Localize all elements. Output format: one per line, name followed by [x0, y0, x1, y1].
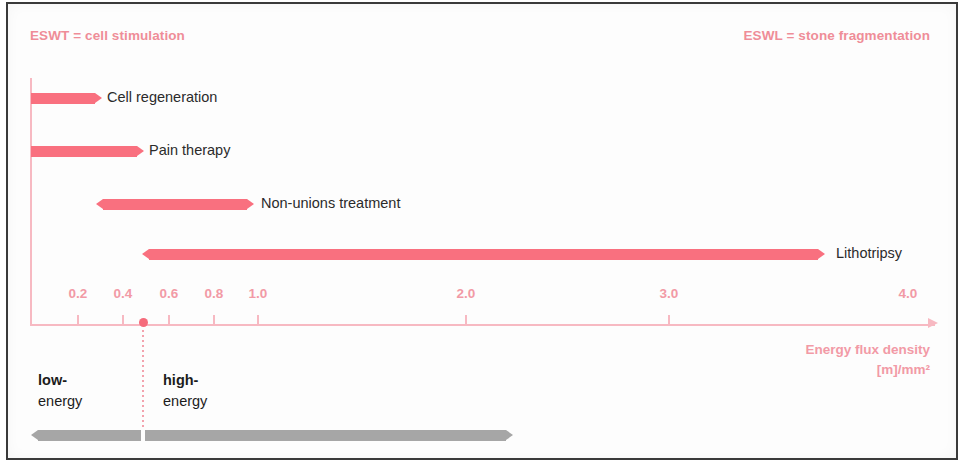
- range-label-pain-therapy: Pain therapy: [149, 142, 230, 158]
- axis-tick-label-0: 0.2: [69, 286, 88, 301]
- range-label-non-unions-treatment: Non-unions treatment: [261, 195, 400, 211]
- axis-tick-2.0: [465, 315, 467, 325]
- axis-tick-3.0: [668, 315, 670, 325]
- axis-tick-0.4: [122, 315, 124, 325]
- energy-range-gray-bar: [38, 430, 506, 441]
- eswl-caption: ESWL = stone fragmentation: [744, 28, 931, 43]
- zone-high-strong: high-: [163, 370, 207, 391]
- axis-arrow-icon: [928, 318, 938, 328]
- zone-low-weak: energy: [38, 391, 82, 412]
- axis-tick-label-6: 3.0: [660, 286, 679, 301]
- axis-tick-label-2: 0.6: [160, 286, 179, 301]
- zone-label-low-energy: low- energy: [38, 370, 82, 412]
- axis-tick-label-1: 0.4: [114, 286, 133, 301]
- zone-label-high-energy: high- energy: [163, 370, 207, 412]
- range-label-cell-regeneration: Cell regeneration: [107, 89, 217, 105]
- axis-tick-0.6: [168, 315, 170, 325]
- axis-tick-0.8: [213, 315, 215, 325]
- range-bar-pain-therapy: [31, 146, 137, 157]
- vertical-axis-line: [30, 78, 32, 326]
- axis-title-line1: Energy flux density: [805, 340, 930, 360]
- range-bar-cell-regeneration: [31, 93, 95, 104]
- range-bar-non-unions-treatment: [103, 199, 247, 210]
- zone-low-strong: low-: [38, 370, 82, 391]
- axis-tick-label-3: 0.8: [205, 286, 224, 301]
- axis-title-line2: [m]/mm²: [805, 360, 930, 380]
- axis-tick-0.2: [77, 315, 79, 325]
- eswt-caption: ESWT = cell stimulation: [30, 28, 185, 43]
- energy-range-gray-bar-gap: [141, 429, 145, 442]
- axis-tick-label-7: 4.0: [899, 286, 918, 301]
- zone-high-weak: energy: [163, 391, 207, 412]
- horizontal-axis-line: [30, 324, 935, 326]
- axis-title: Energy flux density [m]/mm²: [805, 340, 930, 381]
- range-bar-lithotripsy: [149, 249, 818, 260]
- threshold-dotted-line: [142, 330, 144, 428]
- axis-tick-label-5: 2.0: [457, 286, 476, 301]
- chart-plot-area: ESWT = cell stimulation ESWL = stone fra…: [0, 0, 960, 476]
- axis-tick-1.0: [257, 315, 259, 325]
- threshold-dot-marker: [139, 318, 148, 327]
- figure-canvas: ESWT = cell stimulation ESWL = stone fra…: [0, 0, 960, 476]
- range-label-lithotripsy: Lithotripsy: [836, 245, 902, 261]
- axis-tick-label-4: 1.0: [249, 286, 268, 301]
